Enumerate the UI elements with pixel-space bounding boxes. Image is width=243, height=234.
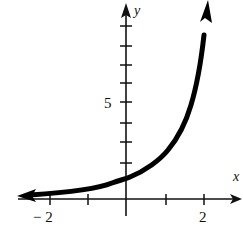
x-tick-label-2: 2: [199, 209, 207, 225]
exponential-curve: [17, 0, 212, 202]
x-axis-label: x: [232, 169, 240, 184]
x-tick-label-neg2: − 2: [33, 209, 53, 225]
graph-canvas: x y 5 − 2 2: [0, 0, 243, 234]
y-axis: [120, 3, 132, 216]
curve-up-arrow-icon: [200, 0, 212, 23]
y-axis-label: y: [132, 3, 141, 18]
y-tick-label-5: 5: [104, 95, 112, 111]
